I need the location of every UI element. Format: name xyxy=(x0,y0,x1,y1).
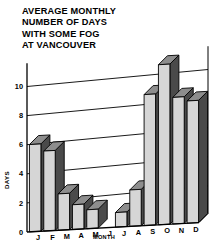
y-tick-label-4: 4 xyxy=(19,169,24,178)
x-axis-title: MONTH xyxy=(93,234,115,240)
bars-group xyxy=(29,55,207,232)
bar-december xyxy=(187,91,207,223)
x-tick-label-january: J xyxy=(36,233,40,242)
y-axis-title: DAYS xyxy=(3,171,10,189)
y-tick-label-2: 2 xyxy=(19,199,23,208)
x-tick-label-february: F xyxy=(50,233,55,242)
x-tick-label-july: J xyxy=(122,229,126,238)
y-tick-label-10: 10 xyxy=(15,82,23,91)
y-tick-label-0: 0 xyxy=(19,228,23,237)
x-tick-label-august: A xyxy=(136,228,142,237)
y-tick-label-6: 6 xyxy=(19,140,23,149)
x-tick-label-april: A xyxy=(78,231,84,240)
x-tick-label-october: O xyxy=(164,226,170,235)
x-tick-label-march: M xyxy=(64,232,70,241)
y-tick-label-8: 8 xyxy=(19,111,23,120)
y-tick-labels-group: 0246810 xyxy=(15,82,24,237)
x-tick-label-december: D xyxy=(193,225,199,234)
x-tick-label-november: N xyxy=(179,226,184,235)
chart-container: AVERAGE MONTHLY NUMBER OF DAYS WITH SOME… xyxy=(0,0,209,242)
bar-chart-plot: 0246810 JFMAMJJASOND MONTH DAYS xyxy=(0,0,209,242)
x-tick-label-september: S xyxy=(150,227,155,236)
